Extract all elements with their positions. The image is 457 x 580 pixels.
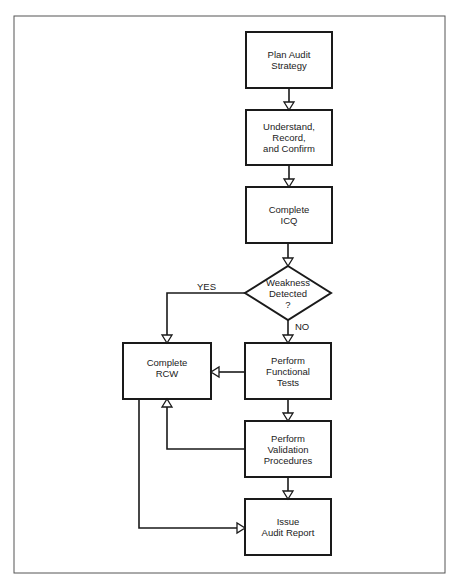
edge-rcw-report bbox=[139, 399, 238, 528]
label-perform-validation-procedures: Perform Validation Procedures bbox=[245, 421, 331, 477]
arrowhead-icon bbox=[283, 413, 293, 421]
label-weakness-detected: Weakness Detected ? bbox=[245, 266, 331, 320]
arrowhead-icon bbox=[162, 399, 172, 407]
edge-label-no: NO bbox=[295, 321, 309, 332]
arrowhead-icon bbox=[283, 491, 293, 499]
outer-frame bbox=[14, 16, 445, 573]
arrowhead-icon bbox=[284, 102, 294, 110]
label-issue-audit-report: Issue Audit Report bbox=[245, 499, 331, 555]
arrowhead-icon bbox=[211, 367, 219, 377]
arrowhead-icon bbox=[162, 335, 172, 343]
label-understand-record-confirm: Understand, Record, and Confirm bbox=[246, 110, 332, 165]
arrowhead-icon bbox=[284, 179, 294, 187]
arrowhead-icon bbox=[283, 335, 293, 343]
label-perform-functional-tests: Perform Functional Tests bbox=[245, 343, 331, 399]
label-plan-audit-strategy: Plan Audit Strategy bbox=[246, 32, 332, 88]
edge-validation-rcw bbox=[167, 406, 245, 449]
arrowhead-icon bbox=[283, 258, 293, 266]
edge-weakness-rcw-yes bbox=[167, 293, 245, 336]
edge-label-yes: YES bbox=[197, 281, 216, 292]
label-complete-rcw: Complete RCW bbox=[123, 343, 211, 393]
flowchart-canvas bbox=[0, 0, 457, 580]
label-complete-icq: Complete ICQ bbox=[246, 187, 332, 243]
arrowhead-icon bbox=[237, 523, 245, 533]
